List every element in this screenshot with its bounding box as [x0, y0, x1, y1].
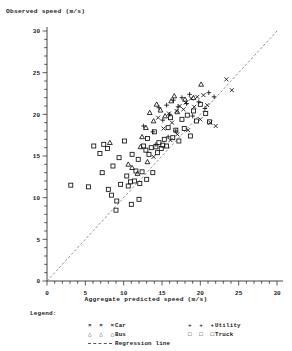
- legend-label-bus: Bus: [115, 331, 126, 338]
- data-point: [92, 144, 96, 148]
- data-point: [152, 155, 156, 159]
- data-point: [107, 140, 112, 144]
- data-point: [154, 102, 159, 106]
- data-point: [172, 94, 177, 98]
- data-point: [106, 187, 110, 191]
- data-point: [187, 92, 192, 97]
- data-point: [145, 159, 150, 163]
- data-point: [186, 128, 190, 132]
- data-point: [188, 134, 192, 138]
- data-point: [102, 142, 106, 146]
- data-point: [122, 139, 126, 143]
- series-truck: [69, 102, 212, 212]
- legend-item-truck: □ □ □ Truck: [188, 330, 241, 339]
- data-point: [191, 95, 196, 99]
- legend-label-utility: Utility: [215, 322, 241, 329]
- data-point: [171, 98, 176, 103]
- legend-item-car: × × × Car: [88, 321, 170, 330]
- data-point: [147, 152, 151, 156]
- y-tick-label: 10: [33, 195, 41, 202]
- data-point: [162, 127, 166, 131]
- data-point: [115, 199, 119, 203]
- legend-item-utility: + + + Utility: [188, 321, 241, 330]
- data-point: [166, 126, 170, 130]
- y-tick-label: 25: [33, 70, 41, 77]
- data-point: [195, 119, 199, 123]
- data-point: [69, 183, 73, 187]
- data-point: [136, 157, 140, 161]
- series-utility: [141, 90, 216, 146]
- legend-item-regression-line: Regression line: [88, 339, 170, 348]
- data-point: [106, 147, 110, 151]
- y-tick-label: 15: [33, 153, 41, 160]
- legend-title: Legend:: [30, 310, 57, 317]
- data-point: [185, 113, 189, 117]
- regression-line-icon: [88, 339, 115, 348]
- data-point: [163, 114, 168, 118]
- data-point: [145, 177, 149, 181]
- data-point: [132, 179, 136, 183]
- data-point: [212, 95, 217, 100]
- x-axis-label: Aggregate predicted speed (m/s): [0, 296, 292, 303]
- legend-item-bus: △ △ △ Bus: [88, 330, 170, 339]
- data-point: [195, 95, 199, 99]
- y-tick-label: 20: [33, 112, 41, 119]
- tick-label-layer: 051015202530051015202530: [33, 28, 281, 297]
- data-point: [206, 90, 211, 95]
- utility-marker-icon: + + +: [188, 321, 215, 330]
- legend-column-left: × × × Car △ △ △ Bus Regression line: [88, 321, 170, 348]
- data-point: [137, 197, 141, 201]
- legend-label-truck: Truck: [215, 331, 233, 338]
- data-points-layer: [69, 77, 234, 212]
- data-point: [176, 105, 181, 110]
- data-point: [230, 88, 234, 92]
- bus-marker-icon: △ △ △: [88, 330, 115, 339]
- data-point: [162, 137, 166, 141]
- data-point: [168, 116, 172, 120]
- data-point: [160, 118, 165, 123]
- data-point: [86, 185, 90, 189]
- data-point: [126, 162, 131, 166]
- data-point: [109, 193, 113, 197]
- data-point: [100, 171, 104, 175]
- data-point: [144, 148, 148, 152]
- y-tick-label: 30: [33, 28, 41, 35]
- data-point: [180, 117, 184, 121]
- data-point: [204, 112, 208, 116]
- legend-label-regression-line: Regression line: [115, 340, 170, 347]
- data-point: [203, 106, 208, 111]
- data-point: [111, 164, 115, 168]
- y-tick-label: 0: [36, 278, 40, 285]
- data-point: [156, 116, 160, 120]
- data-point: [199, 82, 204, 86]
- data-point: [114, 208, 118, 212]
- data-point: [191, 109, 195, 113]
- legend-column-right: + + + Utility □ □ □ Truck: [188, 321, 241, 339]
- data-point: [224, 77, 228, 81]
- data-point: [214, 124, 218, 128]
- data-point: [190, 114, 195, 119]
- data-point: [141, 124, 146, 129]
- data-point: [140, 134, 145, 138]
- data-point: [129, 180, 133, 184]
- legend-label-car: Car: [115, 322, 126, 329]
- data-point: [149, 146, 153, 150]
- data-point: [145, 137, 149, 141]
- data-point: [182, 127, 186, 131]
- data-point: [164, 103, 169, 108]
- data-point: [198, 117, 202, 121]
- chart-page: Observed speed (m/s) 0510152025300510152…: [0, 0, 292, 351]
- car-marker-icon: × × ×: [88, 321, 115, 330]
- data-point: [197, 100, 202, 105]
- data-point: [140, 170, 144, 174]
- data-point: [119, 182, 123, 186]
- data-point: [165, 144, 169, 148]
- data-point: [151, 171, 155, 175]
- data-point: [170, 121, 174, 125]
- data-point: [117, 156, 121, 160]
- data-point: [169, 99, 174, 103]
- data-point: [181, 107, 185, 111]
- data-point: [130, 152, 134, 156]
- data-point: [151, 119, 156, 123]
- data-point: [155, 151, 159, 155]
